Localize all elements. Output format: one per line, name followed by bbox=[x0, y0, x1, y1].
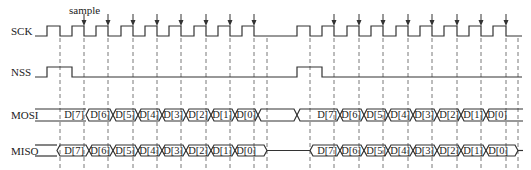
sample-arrow-icon bbox=[204, 20, 209, 26]
sample-arrow-icon bbox=[504, 20, 509, 26]
mosi-bit-label: D[4] bbox=[139, 109, 159, 120]
sample-arrow-icon bbox=[381, 20, 386, 26]
mosi-bit-label: D[6] bbox=[341, 109, 361, 120]
timing-diagram: D[7]D[6]D[5]D[4]D[3]D[2]D[1]D[0]D[7]D[6]… bbox=[0, 0, 531, 170]
miso-bit-label: D[4] bbox=[139, 145, 159, 156]
miso-bit-label: D[7] bbox=[317, 145, 337, 156]
sample-arrow-icon bbox=[131, 20, 136, 26]
miso-bit-label: D[0] bbox=[236, 145, 256, 156]
sample-arrow-icon bbox=[82, 20, 87, 26]
mosi-bit-label: D[7] bbox=[317, 109, 337, 120]
mosi-bit-label: D[1] bbox=[463, 109, 483, 120]
miso-bit-label: D[3] bbox=[163, 145, 183, 156]
miso-bit-label: D[3] bbox=[414, 145, 434, 156]
mosi-bit-label: D[0] bbox=[487, 109, 507, 120]
miso-bit-label: D[2] bbox=[439, 145, 459, 156]
sample-arrow-icon bbox=[455, 20, 460, 26]
sample-arrow-icon bbox=[179, 20, 184, 26]
sample-arrow-icon bbox=[430, 20, 435, 26]
mosi-bit-label: D[1] bbox=[212, 109, 232, 120]
miso-bit-label: D[4] bbox=[390, 145, 410, 156]
mosi-bit-label: D[2] bbox=[188, 109, 208, 120]
mosi-bit-label: D[4] bbox=[390, 109, 410, 120]
miso-bit-label: D[5] bbox=[366, 145, 386, 156]
sample-arrow-icon bbox=[406, 20, 411, 26]
mosi-bit-label: D[2] bbox=[439, 109, 459, 120]
mosi-bit-label: D[3] bbox=[163, 109, 183, 120]
sample-arrow-icon bbox=[106, 20, 111, 26]
sample-arrow-icon bbox=[252, 20, 257, 26]
mosi-bit-label: D[3] bbox=[414, 109, 434, 120]
miso-bit-label: D[7] bbox=[64, 145, 84, 156]
sample-arrow-icon bbox=[332, 20, 337, 26]
miso-bit-label: D[0] bbox=[488, 145, 508, 156]
sck-waveform bbox=[35, 26, 522, 36]
sample-arrow-icon bbox=[155, 20, 160, 26]
sample-arrow-icon bbox=[357, 20, 362, 26]
mosi-bit-label: D[6] bbox=[90, 109, 110, 120]
miso-bit-label: D[1] bbox=[212, 145, 232, 156]
miso-bit-label: D[5] bbox=[115, 145, 135, 156]
miso-bit-label: D[6] bbox=[341, 145, 361, 156]
sample-arrow-icon bbox=[479, 20, 484, 26]
miso-bit-label: D[1] bbox=[463, 145, 483, 156]
mosi-bit-label: D[7] bbox=[64, 109, 84, 120]
miso-bit-label: D[2] bbox=[188, 145, 208, 156]
mosi-bit-label: D[0] bbox=[236, 109, 256, 120]
mosi-bit-label: D[5] bbox=[366, 109, 386, 120]
mosi-bit-cell bbox=[258, 109, 297, 121]
sample-arrow-icon bbox=[228, 20, 233, 26]
miso-bit-label: D[6] bbox=[90, 145, 110, 156]
mosi-bit-label: D[5] bbox=[115, 109, 135, 120]
